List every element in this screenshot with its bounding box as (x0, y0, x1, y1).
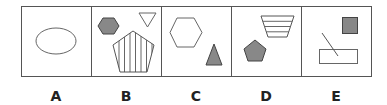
rectangle-shape (320, 50, 358, 64)
hexagon-shape (170, 18, 202, 47)
striped-pentagon-shape (113, 25, 154, 80)
option-label-c: C (161, 88, 231, 104)
panel-c (170, 18, 222, 65)
option-label-d: D (231, 88, 301, 104)
ellipse-shape (36, 28, 76, 54)
panel-d (244, 16, 294, 61)
gray-hexagon-shape (98, 18, 119, 34)
option-label-e: E (301, 88, 371, 104)
inverted-triangle-shape (139, 13, 156, 27)
striped-trapezoid-shape (261, 16, 294, 37)
panel-e (320, 18, 358, 64)
gray-triangle-shape (206, 44, 222, 65)
gray-square-shape (343, 18, 358, 34)
option-label-a: A (21, 88, 91, 104)
panel-b (98, 13, 156, 80)
panel-a (36, 28, 76, 54)
option-label-b: B (91, 88, 161, 104)
gray-pentagon-shape (244, 40, 266, 61)
